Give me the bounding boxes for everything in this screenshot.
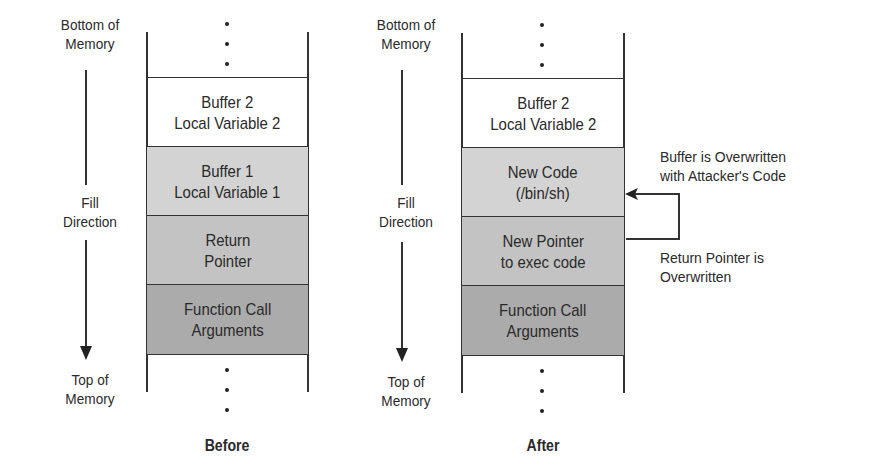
buffer-overwritten-note: Buffer is Overwritten with Attacker's Co… xyxy=(660,147,786,185)
fill-direction-line-lower xyxy=(85,240,87,348)
cell-label: Function Call Arguments xyxy=(184,299,271,341)
ellipsis-dot xyxy=(540,63,544,67)
stack-cell-function-args: Function Call Arguments xyxy=(147,284,308,355)
down-arrow-icon xyxy=(80,346,92,360)
ellipsis-dot xyxy=(225,408,229,412)
cell-label: New Pointer to exec code xyxy=(501,231,586,273)
bottom-of-memory-label: Bottom of Memory xyxy=(362,15,450,53)
ellipsis-dot xyxy=(540,23,544,27)
after-caption: After xyxy=(499,437,587,455)
ellipsis-dot xyxy=(540,369,544,373)
ellipsis-dot xyxy=(540,389,544,393)
cell-label: Buffer 1 Local Variable 1 xyxy=(174,161,280,203)
stack-cell-new-code: New Code (/bin/sh) xyxy=(462,147,624,217)
ellipsis-dot xyxy=(225,42,229,46)
cell-label: Buffer 2 Local Variable 2 xyxy=(490,93,596,135)
ellipsis-dot xyxy=(540,43,544,47)
ellipsis-dot xyxy=(225,22,229,26)
fill-direction-line-upper xyxy=(85,70,87,185)
fill-direction-line-lower xyxy=(401,242,403,350)
fill-direction-line-upper xyxy=(401,70,403,185)
cell-label: New Code (/bin/sh) xyxy=(508,162,578,204)
ellipsis-dot xyxy=(225,388,229,392)
stack-cell-function-args: Function Call Arguments xyxy=(462,285,624,356)
bottom-of-memory-label: Bottom of Memory xyxy=(46,15,134,53)
ellipsis-dot xyxy=(225,368,229,372)
pointer-overwritten-note: Return Pointer is Overwritten xyxy=(660,248,764,286)
before-caption: Before xyxy=(183,437,271,455)
cell-label: Function Call Arguments xyxy=(499,300,586,342)
stack-cell-return-pointer: Return Pointer xyxy=(147,215,308,285)
top-of-memory-label: Top of Memory xyxy=(362,372,450,410)
cell-label: Buffer 2 Local Variable 2 xyxy=(174,92,280,134)
stack-cell-new-pointer: New Pointer to exec code xyxy=(462,216,624,286)
stack-cell-buffer2: Buffer 2 Local Variable 2 xyxy=(147,77,308,147)
top-of-memory-label: Top of Memory xyxy=(46,370,134,408)
fill-direction-label: Fill Direction xyxy=(362,193,450,231)
fill-direction-label: Fill Direction xyxy=(46,193,134,231)
ellipsis-dot xyxy=(540,409,544,413)
overwrite-connector-arrow-icon xyxy=(624,185,684,245)
stack-cell-buffer1: Buffer 1 Local Variable 1 xyxy=(147,146,308,216)
down-arrow-icon xyxy=(396,348,408,362)
stack-cell-buffer2: Buffer 2 Local Variable 2 xyxy=(462,78,624,148)
cell-label: Return Pointer xyxy=(204,230,251,272)
ellipsis-dot xyxy=(225,62,229,66)
